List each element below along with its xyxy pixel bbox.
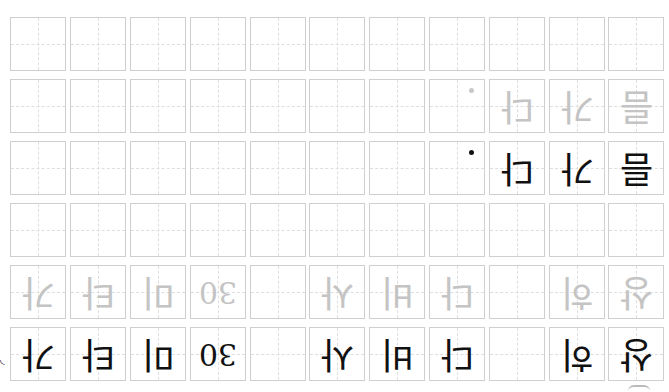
grid-cell: 30: [190, 327, 246, 381]
hangul-glyph: 미: [131, 328, 185, 380]
hangul-glyph: 히: [550, 328, 604, 380]
page-edge-mark: ◟: [0, 352, 5, 366]
grid-cell: [190, 203, 246, 257]
hangul-glyph: 상: [609, 328, 663, 380]
grid-cell: [369, 17, 425, 71]
grid-cell: [608, 17, 664, 71]
grid-cell: [190, 17, 246, 71]
hangul-glyph: 사: [310, 328, 364, 380]
grid-cell: [309, 17, 365, 71]
grid-cell: 가: [10, 327, 66, 381]
grid-cell: [250, 79, 306, 133]
grid-cell: 다: [489, 141, 545, 195]
grid-cell: 가: [549, 79, 605, 133]
grid-cell: [429, 203, 485, 257]
grid-cell: [130, 79, 186, 133]
grid-cell: [429, 141, 485, 195]
hangul-glyph: 다: [490, 80, 544, 132]
grid-cell: [309, 79, 365, 133]
period-mark: [469, 150, 474, 155]
grid-cell: [429, 17, 485, 71]
grid-cell: [429, 79, 485, 133]
grid-cell: [190, 141, 246, 195]
hangul-glyph: 타: [71, 266, 125, 318]
hangul-glyph: 름: [609, 142, 663, 194]
grid-cell: [489, 17, 545, 71]
hangul-glyph: 30: [191, 266, 245, 318]
grid-cell: [489, 265, 545, 319]
hangul-glyph: 상: [609, 266, 663, 318]
hangul-glyph: 30: [191, 328, 245, 380]
grid-cell: [10, 79, 66, 133]
grid-cell: [369, 141, 425, 195]
grid-cell: [489, 327, 545, 381]
grid-cell: [250, 265, 306, 319]
grid-cell: [250, 17, 306, 71]
period-mark: [469, 88, 474, 93]
grid-cell: [549, 203, 605, 257]
grid-cell: 30: [190, 265, 246, 319]
grid-cell: [70, 141, 126, 195]
hangul-glyph: 름: [609, 80, 663, 132]
hangul-glyph: 가: [11, 266, 65, 318]
grid-cell: 비: [369, 265, 425, 319]
hangul-glyph: 비: [370, 328, 424, 380]
hangul-glyph: 가: [550, 142, 604, 194]
grid-cell: 다: [429, 327, 485, 381]
grid-cell: [309, 203, 365, 257]
hangul-glyph: 다: [490, 142, 544, 194]
hangul-glyph: 다: [430, 266, 484, 318]
grid-cell: 히: [549, 327, 605, 381]
page-corner-mark: [628, 385, 650, 392]
grid-cell: 미: [130, 327, 186, 381]
grid-cell: 사: [309, 265, 365, 319]
grid-cell: [190, 79, 246, 133]
grid-cell: [70, 17, 126, 71]
hangul-glyph: 타: [71, 328, 125, 380]
grid-cell: 다: [489, 79, 545, 133]
grid-cell: 타: [70, 265, 126, 319]
grid-cell: [549, 17, 605, 71]
grid-cell: 상: [608, 327, 664, 381]
grid-cell: 히: [549, 265, 605, 319]
grid-cell: [250, 327, 306, 381]
grid-cell: 비: [369, 327, 425, 381]
hangul-glyph: 다: [430, 328, 484, 380]
hangul-glyph: 비: [370, 266, 424, 318]
grid-cell: [70, 79, 126, 133]
grid-cell: [10, 141, 66, 195]
hangul-glyph: 가: [550, 80, 604, 132]
grid-cell: [70, 203, 126, 257]
grid-cell: [369, 79, 425, 133]
grid-cell: [130, 17, 186, 71]
grid-cell: 름: [608, 141, 664, 195]
grid-cell: [10, 17, 66, 71]
hangul-glyph: 사: [310, 266, 364, 318]
grid-cell: 사: [309, 327, 365, 381]
grid-cell: [130, 141, 186, 195]
grid-cell: 타: [70, 327, 126, 381]
grid-cell: [250, 203, 306, 257]
grid-cell: [130, 203, 186, 257]
grid-cell: [369, 203, 425, 257]
hangul-glyph: 가: [11, 328, 65, 380]
grid-cell: 름: [608, 79, 664, 133]
grid-cell: 다: [429, 265, 485, 319]
grid-cell: 가: [10, 265, 66, 319]
grid-cell: 가: [549, 141, 605, 195]
hangul-glyph: 미: [131, 266, 185, 318]
grid-cell: [10, 203, 66, 257]
grid-cell: [608, 203, 664, 257]
grid-cell: [489, 203, 545, 257]
hangul-glyph: 히: [550, 266, 604, 318]
grid-cell: [250, 141, 306, 195]
grid-cell: 상: [608, 265, 664, 319]
grid-cell: [309, 141, 365, 195]
grid-cell: 미: [130, 265, 186, 319]
